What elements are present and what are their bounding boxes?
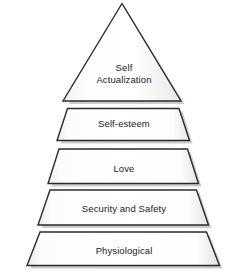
tier-shape-self-esteem	[57, 109, 190, 141]
tier-shape-physiological	[27, 232, 220, 266]
tier-shape-love	[48, 149, 199, 184]
tier-shape-security-and-safety	[38, 190, 209, 225]
pyramid-graphic	[0, 0, 248, 274]
pyramid-diagram: Self Actualization Self-esteem Love Secu…	[0, 0, 248, 274]
tier-shape-self-actualization	[63, 4, 181, 102]
